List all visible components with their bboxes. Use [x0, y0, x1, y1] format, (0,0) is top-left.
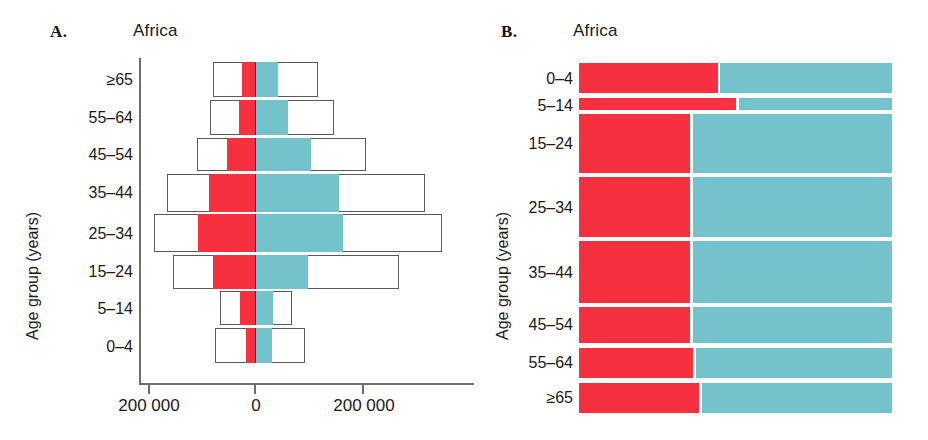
- panel-a-y-label-5-14: 5–14: [35, 301, 133, 317]
- panel-a-bar-45-54-teal: [256, 138, 311, 171]
- panel-a-bar-55-64-red: [239, 100, 255, 135]
- panel-a-bar-15-24-zero-line: [255, 255, 257, 289]
- panel-a-y-label-15-24: 15–24: [35, 264, 133, 280]
- panel-a-bar-0-4-zero-line: [255, 328, 257, 363]
- panel-a-bar-35-44-red: [209, 174, 255, 212]
- panel-b-bar-0-4-red: [579, 63, 718, 93]
- panel-b-bar-5-14-teal: [739, 98, 892, 110]
- panel-b-y-label-25-34: 25–34: [488, 200, 573, 216]
- panel-b-y-label-15-24: 15–24: [488, 136, 573, 152]
- panel-a-bar-15-24-teal: [256, 255, 308, 289]
- panel-a-bar-65plus-teal: [256, 62, 278, 97]
- panel-a-bar-45-54-red: [227, 138, 255, 171]
- panel-b-y-label-35-44: 35–44: [488, 265, 573, 281]
- panel-a-x-tick-1: [254, 385, 256, 394]
- panel-a-bar-25-34-teal: [256, 214, 343, 252]
- panel-a-x-tick-0: [148, 385, 150, 394]
- panel-a-y-label-45-54: 45–54: [35, 147, 133, 163]
- panel-b-bar-25-34-teal: [693, 177, 892, 237]
- panel-a-bar-65plus-zero-line: [255, 62, 257, 97]
- panel-a-bar-5-14-teal: [256, 291, 273, 325]
- panel-a-x-tick-label-2: 200 000: [333, 396, 394, 416]
- panel-a-bar-5-14-zero-line: [255, 291, 257, 325]
- panel-b-bar-55-64-teal: [696, 348, 892, 378]
- panel-a-y-axis-line: [139, 58, 141, 384]
- panel-b: B. Africa Age group (years) 0–4 5–14 15–…: [480, 0, 928, 440]
- panel-a-bar-35-44-teal: [256, 174, 339, 212]
- panel-b-bar-45-54-red: [579, 307, 690, 343]
- panel-b-y-label-55-64: 55–64: [488, 355, 573, 371]
- panel-b-bar-35-44-teal: [693, 241, 892, 303]
- panel-a-x-tick-label-1: 0: [251, 396, 260, 416]
- panel-a-bar-55-64-teal: [256, 100, 288, 135]
- panel-a-bar-45-54-zero-line: [255, 138, 257, 171]
- panel-a-y-label-25-34: 25–34: [35, 226, 133, 242]
- panel-a-bar-25-34-red: [198, 214, 255, 252]
- panel-a-bar-35-44-zero-line: [255, 174, 257, 212]
- panel-b-bar-55-64-red: [579, 348, 693, 378]
- panel-b-y-label-5-14: 5–14: [488, 98, 573, 114]
- panel-b-bar-0-4-teal: [720, 63, 892, 93]
- panel-a-y-label-0-4: 0–4: [35, 339, 133, 355]
- panel-a-bar-25-34-zero-line: [255, 214, 257, 252]
- panel-a-y-label-35-44: 35–44: [35, 185, 133, 201]
- panel-a-y-label-55-64: 55–64: [35, 110, 133, 126]
- panel-b-bar-5-14-red: [579, 98, 736, 110]
- panel-b-bar-25-34-red: [579, 177, 690, 237]
- figure-population-pyramids: A. Africa Age group (years) 200 000 0 20…: [0, 0, 928, 440]
- panel-a-bar-5-14-red: [240, 291, 255, 325]
- panel-b-bar-15-24-teal: [693, 114, 892, 173]
- panel-b-bar-15-24-red: [579, 114, 690, 173]
- panel-b-y-label-45-54: 45–54: [488, 317, 573, 333]
- panel-a-bar-15-24-red: [213, 255, 255, 289]
- panel-b-bar-45-54-teal: [693, 307, 892, 343]
- panel-a-bar-0-4-teal: [256, 328, 272, 363]
- panel-a-x-tick-label-0: 200 000: [118, 396, 179, 416]
- panel-a-x-tick-2: [362, 385, 364, 394]
- panel-b-y-label-0-4: 0–4: [488, 71, 573, 87]
- panel-a-bar-65plus-red: [242, 62, 255, 97]
- panel-a-x-axis-line: [139, 383, 474, 385]
- panel-b-y-label-65plus: ≥65: [488, 390, 573, 406]
- panel-b-bar-35-44-red: [579, 241, 690, 303]
- panel-b-bar-65plus-teal: [702, 383, 892, 413]
- panel-a-bar-55-64-zero-line: [255, 100, 257, 135]
- panel-a-y-label-65plus: ≥65: [35, 72, 133, 88]
- panel-a-plot-area: 200 000 0 200 000 ≥65 55–64 45–54 35–44 …: [0, 0, 480, 440]
- panel-b-bar-65plus-red: [579, 383, 699, 413]
- panel-a: A. Africa Age group (years) 200 000 0 20…: [0, 0, 480, 440]
- panel-b-plot-area: 0–4 5–14 15–24 25–34 35–44 45–54 55–64 ≥…: [480, 0, 928, 440]
